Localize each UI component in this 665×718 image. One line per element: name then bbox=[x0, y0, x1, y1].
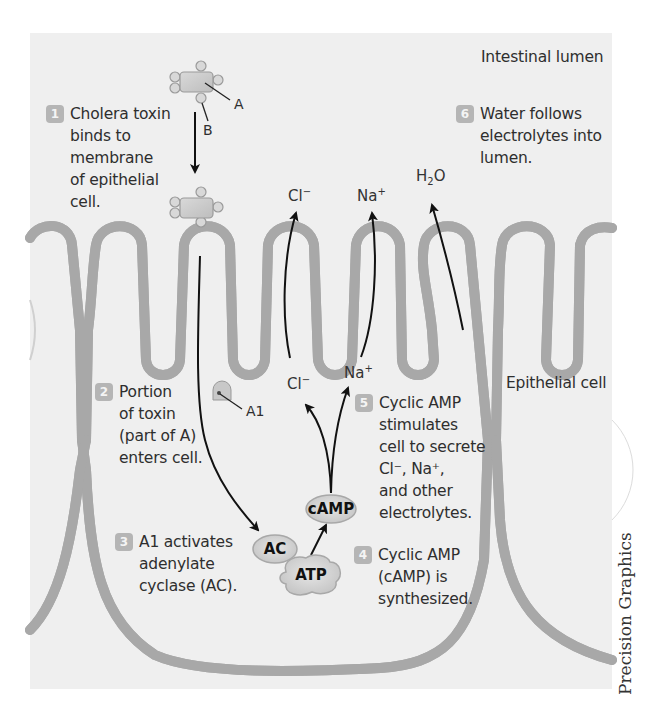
ac-label: AC bbox=[253, 540, 297, 558]
chloride-ion-lumen: Cl− bbox=[288, 186, 311, 205]
step-6: 6 Water follows electrolytes into lumen. bbox=[456, 103, 602, 169]
neighbor-cell-outline bbox=[612, 420, 633, 520]
step-1: 1 Cholera toxin binds to membrane of epi… bbox=[46, 103, 171, 213]
step-badge: 1 bbox=[46, 105, 64, 123]
cholera-toxin-bound bbox=[170, 187, 223, 227]
step-4: 4 Cyclic AMP (cAMP) is synthesized. bbox=[354, 544, 473, 610]
intestinal-lumen-label: Intestinal lumen bbox=[481, 46, 603, 68]
step-badge: 6 bbox=[456, 105, 474, 123]
water-label: H2O bbox=[416, 167, 445, 187]
step-badge: 2 bbox=[95, 383, 113, 401]
step-text: Cyclic AMP stimulates cell to secrete Cl… bbox=[379, 392, 485, 524]
toxin-part-b-label: B bbox=[203, 119, 212, 141]
step-badge: 4 bbox=[354, 546, 372, 564]
step-3: 3 A1 activates adenylate cyclase (AC). bbox=[115, 531, 237, 597]
step-text: Cholera toxin binds to membrane of epith… bbox=[70, 103, 171, 213]
step-text: A1 activates adenylate cyclase (AC). bbox=[139, 531, 237, 597]
step-text: Water follows electrolytes into lumen. bbox=[480, 103, 602, 169]
chloride-ion-cell: Cl− bbox=[287, 374, 310, 393]
a1-fragment bbox=[213, 381, 242, 409]
cholera-toxin-free bbox=[170, 61, 223, 103]
step-badge: 3 bbox=[115, 533, 133, 551]
credit-label: Precision Graphics bbox=[615, 532, 635, 695]
step-2: 2 Portion of toxin (part of A) enters ce… bbox=[95, 381, 203, 469]
step-text: Portion of toxin (part of A) enters cell… bbox=[119, 381, 203, 469]
sodium-ion-cell: Na+ bbox=[344, 363, 373, 382]
toxin-part-a-label: A bbox=[234, 93, 243, 115]
toxin-a1-label: A1 bbox=[246, 400, 264, 422]
step-badge: 5 bbox=[355, 394, 373, 412]
sodium-ion-lumen: Na+ bbox=[357, 186, 386, 205]
step-text: Cyclic AMP (cAMP) is synthesized. bbox=[378, 544, 473, 610]
atp-label: ATP bbox=[287, 566, 335, 584]
camp-label: cAMP bbox=[306, 500, 356, 518]
step-5: 5 Cyclic AMP stimulates cell to secrete … bbox=[355, 392, 485, 524]
epithelial-cell-label: Epithelial cell bbox=[506, 372, 606, 394]
